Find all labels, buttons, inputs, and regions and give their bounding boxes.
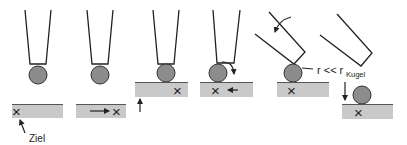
- ball: [353, 86, 371, 104]
- radius-relation: r << r: [317, 64, 344, 76]
- tip: [25, 10, 51, 64]
- tip: [153, 10, 179, 64]
- plate: [200, 82, 253, 97]
- radius-subscript: Kugel: [346, 70, 366, 79]
- target-label: Ziel: [29, 133, 45, 144]
- panel-1: × Ziel: [12, 10, 63, 144]
- ball: [284, 64, 302, 82]
- target-arrow: [20, 120, 25, 133]
- target-mark: ×: [173, 82, 182, 99]
- target-mark: ×: [12, 103, 21, 120]
- diagram-canvas: × Ziel × × × r << r: [0, 0, 407, 145]
- withdrawn-tip: [320, 14, 372, 66]
- panel-5: r << r Kugel ×: [255, 12, 366, 99]
- panel-2: ×: [76, 10, 126, 120]
- panel-3: ×: [135, 10, 188, 112]
- panel-4: ×: [200, 10, 253, 99]
- ball: [91, 66, 109, 84]
- target-mark: ×: [287, 82, 296, 99]
- ball: [209, 64, 227, 82]
- plate: [342, 104, 393, 119]
- tilted-tip: [255, 12, 305, 64]
- target-mark: ×: [354, 104, 363, 121]
- tip: [213, 10, 240, 63]
- ball: [157, 64, 175, 82]
- target-mark: ×: [211, 82, 220, 99]
- tilt-arrow: [275, 17, 291, 32]
- tip: [87, 10, 113, 64]
- radius-leader: [302, 68, 313, 69]
- ball: [29, 66, 47, 84]
- target-mark: ×: [112, 103, 121, 120]
- plate: [277, 82, 329, 97]
